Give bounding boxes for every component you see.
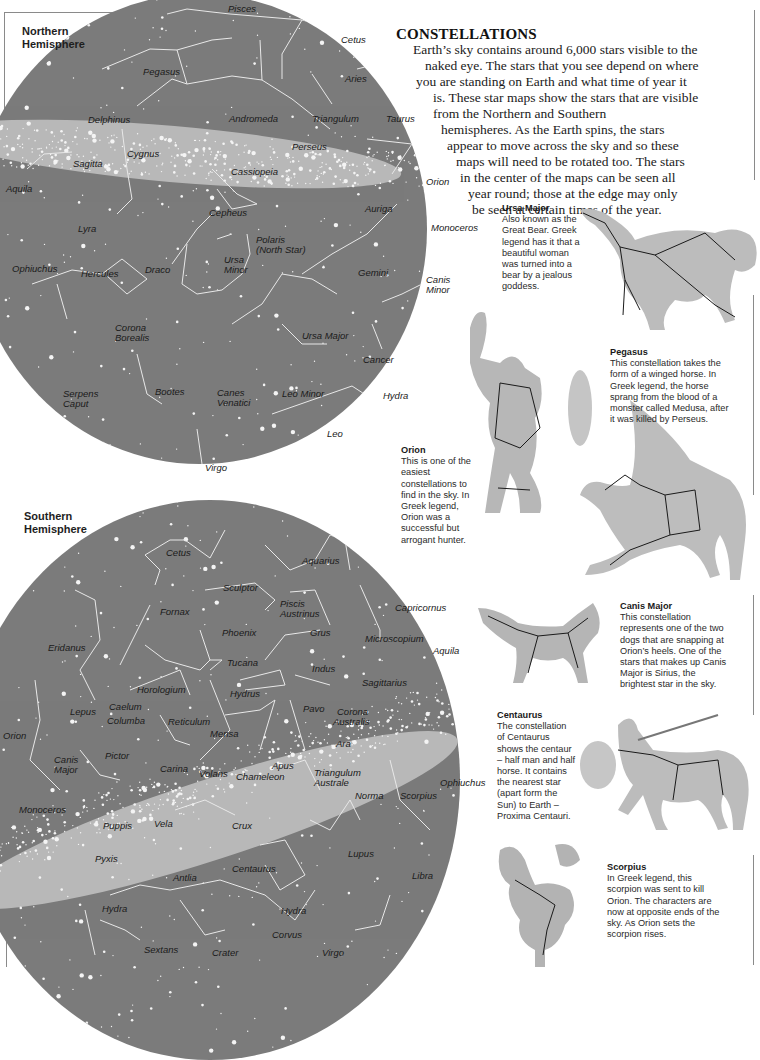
caption-pegasus: PegasusThis constellation takes theform … bbox=[610, 347, 760, 425]
north-label-cassiopeia: Cassiopeia bbox=[231, 166, 278, 177]
south-label-sagittarius: Sagittarius bbox=[362, 677, 407, 688]
southern-hemisphere-heading: Southern Hemisphere bbox=[24, 510, 87, 536]
caption-line: Greek legend, bbox=[401, 501, 481, 512]
intro-line: year round; those at the edge may only bbox=[468, 186, 678, 201]
canis-major-dog-illustration bbox=[478, 598, 608, 688]
south-label-volans: Volans bbox=[199, 768, 228, 779]
caption-line: This is one of the bbox=[401, 456, 481, 467]
north-label-triangulum: Triangulum bbox=[312, 113, 359, 124]
caption-line: Also known as the bbox=[502, 214, 607, 225]
north-label-monoceros: Monoceros bbox=[431, 222, 478, 233]
caption-line: legend has it that a bbox=[502, 237, 607, 248]
south-label-crater: Crater bbox=[212, 947, 238, 958]
north-label-sagitta: Sagitta bbox=[73, 158, 103, 169]
intro-line: in the center of the maps can be seen al… bbox=[460, 170, 676, 185]
caption-line: beautiful woman bbox=[502, 248, 607, 259]
caption-line: represents one of the two bbox=[620, 623, 760, 634]
north-label-auriga: Auriga bbox=[365, 203, 392, 214]
south-label-vela: Vela bbox=[154, 818, 173, 829]
north-label-virgo: Virgo bbox=[205, 462, 227, 473]
caption-line: scorpion was sent to kill bbox=[607, 884, 757, 895]
south-label-cetus: Cetus bbox=[166, 547, 191, 558]
south-label-lupus: Lupus bbox=[348, 848, 374, 859]
south-label-pictor: Pictor bbox=[105, 750, 129, 761]
north-label-pisces: Pisces bbox=[228, 3, 256, 14]
intro-line: Earth’s sky contains around 6,000 stars … bbox=[413, 42, 698, 57]
south-label-sextans: Sextans bbox=[144, 944, 178, 955]
page-title: CONSTELLATIONS bbox=[396, 26, 537, 43]
south-label-virgo: Virgo bbox=[322, 947, 344, 958]
north-label-cygnus: Cygnus bbox=[127, 148, 159, 159]
caption-line: form of a winged horse. In bbox=[610, 369, 760, 380]
south-label-pyxis: Pyxis bbox=[95, 853, 118, 864]
caption-ursa-major: Ursa MajorAlso known as theGreat Bear. G… bbox=[502, 203, 607, 293]
caption-line: This constellation bbox=[620, 612, 760, 623]
south-label-indus: Indus bbox=[312, 663, 335, 674]
caption-orion: OrionThis is one of theeasiestconstellat… bbox=[401, 445, 481, 546]
north-label-aries: Aries bbox=[345, 73, 367, 84]
south-label-monoceros: Monoceros bbox=[19, 804, 66, 815]
south-label-tucana: Tucana bbox=[227, 657, 258, 668]
south-label-hydrus: Hydrus bbox=[230, 688, 260, 699]
caption-line: now at opposite ends of the bbox=[607, 907, 757, 918]
caption-title: Ursa Major bbox=[502, 203, 607, 214]
north-label-corona2: Borealis bbox=[115, 332, 149, 343]
south-label-carina: Carina bbox=[160, 763, 188, 774]
frame-line-right-top bbox=[754, 10, 755, 180]
south-label-puppis: Puppis bbox=[103, 820, 132, 831]
south-label-triangulum2: Australe bbox=[314, 777, 349, 788]
south-label-aquila: Aquila bbox=[433, 645, 459, 656]
intro-line: maps will need to be rotated too. The st… bbox=[456, 154, 685, 169]
heading-line: Hemisphere bbox=[22, 38, 85, 50]
south-label-piscis2: Austrinus bbox=[280, 608, 320, 619]
heading-line: Hemisphere bbox=[24, 523, 87, 535]
south-label-orion: Orion bbox=[3, 730, 26, 741]
north-label-aquila: Aquila bbox=[6, 183, 32, 194]
heading-line: Northern bbox=[22, 25, 68, 37]
north-label-perseus: Perseus bbox=[292, 141, 327, 152]
caption-line: monster called Medusa, after bbox=[610, 403, 760, 414]
caption-line: sprang from the blood of a bbox=[610, 392, 760, 403]
caption-line: horse. It contains bbox=[497, 766, 607, 777]
south-label-libra: Libra bbox=[412, 870, 433, 881]
north-label-gemini: Gemini bbox=[358, 267, 388, 278]
south-label-hydra-right: Hydra bbox=[281, 905, 306, 916]
north-label-canis-minor2: Minor bbox=[426, 284, 450, 295]
caption-line: brightest star in the sky. bbox=[620, 679, 760, 690]
intro-line: naked eye. The stars that you see depend… bbox=[425, 58, 698, 73]
south-label-grus: Grus bbox=[310, 627, 331, 638]
south-label-pavo: Pavo bbox=[303, 703, 325, 714]
caption-line: arrogant hunter. bbox=[401, 535, 481, 546]
intro-line: appear to move across the sky and so the… bbox=[447, 138, 679, 153]
caption-line: constellations to bbox=[401, 479, 481, 490]
caption-line: Proxima Centauri. bbox=[497, 811, 607, 822]
intro-line: from the Northern and Southern bbox=[433, 106, 606, 121]
caption-line: dogs that are snapping at bbox=[620, 635, 760, 646]
caption-line: Orion was a bbox=[401, 512, 481, 523]
south-label-apus: Apus bbox=[272, 760, 294, 771]
caption-line: In Greek legend, this bbox=[607, 873, 757, 884]
caption-line: successful but bbox=[401, 523, 481, 534]
pegasus-winged-horse-illustration bbox=[570, 400, 750, 585]
south-label-canis2: Major bbox=[54, 764, 78, 775]
north-label-leo-minor: Leo Minor bbox=[282, 388, 324, 399]
south-label-eridanus: Eridanus bbox=[48, 642, 86, 653]
south-label-ophiuchus: Ophiuchus bbox=[440, 777, 485, 788]
south-label-columba: Columba bbox=[107, 715, 145, 726]
caption-line: Sun) to Earth – bbox=[497, 800, 607, 811]
south-label-microscopium: Microscopium bbox=[365, 633, 424, 644]
south-label-horologium: Horologium bbox=[137, 684, 186, 695]
south-label-aquarius: Aquarius bbox=[302, 555, 340, 566]
caption-line: The constellation bbox=[497, 721, 607, 732]
south-label-corona2: Australis bbox=[333, 716, 369, 727]
caption-scorpius: ScorpiusIn Greek legend, thisscorpion wa… bbox=[607, 862, 757, 940]
south-label-sculptor: Sculptor bbox=[223, 582, 258, 593]
south-label-caelum: Caelum bbox=[109, 701, 142, 712]
north-label-polaris2: (North Star) bbox=[256, 244, 306, 255]
north-label-taurus: Taurus bbox=[386, 113, 415, 124]
caption-line: Greek legend, the horse bbox=[610, 381, 760, 392]
caption-canis-major: Canis MajorThis constellationrepresents … bbox=[620, 601, 760, 691]
south-label-crux: Crux bbox=[232, 820, 252, 831]
caption-line: of Centaurus bbox=[497, 732, 607, 743]
south-label-hydra-left: Hydra bbox=[102, 903, 127, 914]
